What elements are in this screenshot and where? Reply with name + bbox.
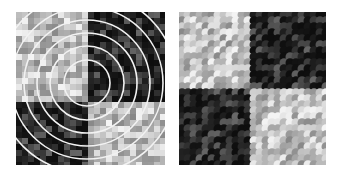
smoothed-checkerboard-image (179, 12, 326, 165)
right-texture-panel (179, 12, 326, 165)
left-texture-panel (16, 12, 165, 165)
checkerboard-with-rings-image (16, 12, 165, 165)
